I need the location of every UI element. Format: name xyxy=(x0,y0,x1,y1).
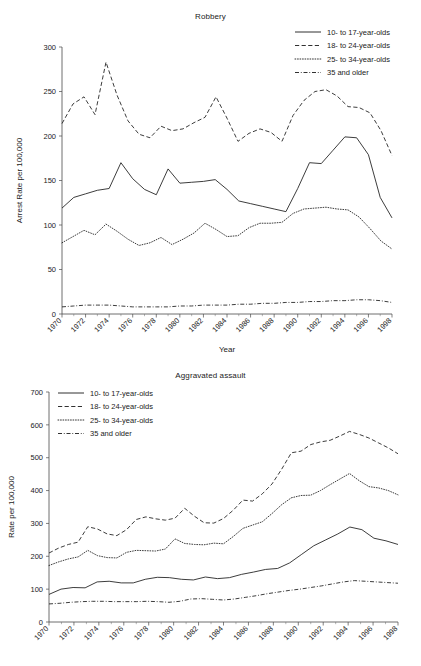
chart-robbery: Robbery 050100150200250300Arrest Rate pe… xyxy=(0,0,421,360)
x-tick-label: 1980 xyxy=(163,316,181,334)
series-line-0 xyxy=(49,527,398,594)
y-axis-title: Rate per 100,000 xyxy=(7,476,16,538)
y-tick-label: 700 xyxy=(30,388,43,397)
x-tick-label: 1984 xyxy=(207,624,225,642)
x-tick-label: 1994 xyxy=(328,316,346,334)
legend-label: 10- to 17-year-olds xyxy=(327,28,390,37)
y-tick-label: 500 xyxy=(30,453,43,462)
legend-label: 35 and older xyxy=(327,68,369,77)
x-tick-label: 1990 xyxy=(281,316,299,334)
x-tick-label: 1976 xyxy=(116,316,134,334)
series-line-1 xyxy=(49,431,398,553)
x-tick-label: 1970 xyxy=(45,316,63,334)
y-tick-label: 250 xyxy=(43,87,56,96)
x-tick-label: 1998 xyxy=(375,316,393,334)
series-line-3 xyxy=(62,300,392,307)
series-line-2 xyxy=(49,473,398,565)
legend-label: 25- to 34-year-olds xyxy=(327,55,390,64)
series-line-3 xyxy=(49,581,398,604)
x-tick-label: 1988 xyxy=(257,316,275,334)
x-tick-label: 1996 xyxy=(356,624,374,642)
y-tick-label: 600 xyxy=(30,421,43,430)
legend-label: 25- to 34-year-olds xyxy=(90,416,153,425)
y-axis-title: Arrest Rate per 100,000 xyxy=(15,137,24,223)
x-tick-label: 1990 xyxy=(282,624,300,642)
y-tick-label: 300 xyxy=(43,43,56,52)
assault-plot-svg: 0100200300400500600700Rate per 100,00019… xyxy=(0,360,421,666)
x-tick-label: 1970 xyxy=(32,624,50,642)
y-tick-label: 100 xyxy=(30,585,43,594)
y-tick-label: 150 xyxy=(43,176,56,185)
x-tick-label: 1974 xyxy=(82,624,100,642)
x-tick-label: 1992 xyxy=(306,624,324,642)
x-tick-label: 1982 xyxy=(187,316,205,334)
legend-label: 35 and older xyxy=(90,429,132,438)
x-tick-label: 1978 xyxy=(132,624,150,642)
legend-label: 10- to 17-year-olds xyxy=(90,389,153,398)
series-line-0 xyxy=(62,137,392,218)
y-tick-label: 200 xyxy=(30,552,43,561)
x-tick-label: 1980 xyxy=(157,624,175,642)
robbery-plot-svg: 050100150200250300Arrest Rate per 100,00… xyxy=(0,0,421,360)
x-tick-label: 1986 xyxy=(232,624,250,642)
legend-label: 18- to 24-year-olds xyxy=(327,41,390,50)
series-line-2 xyxy=(62,207,392,249)
y-tick-label: 300 xyxy=(30,519,43,528)
y-tick-label: 200 xyxy=(43,132,56,141)
y-tick-label: 400 xyxy=(30,486,43,495)
x-tick-label: 1994 xyxy=(331,624,349,642)
y-tick-label: 100 xyxy=(43,221,56,230)
x-tick-label: 1974 xyxy=(92,316,110,334)
x-tick-label: 1984 xyxy=(210,316,228,334)
y-tick-label: 50 xyxy=(48,265,56,274)
x-tick-label: 1992 xyxy=(305,316,323,334)
x-tick-label: 1978 xyxy=(140,316,158,334)
x-tick-label: 1998 xyxy=(381,624,399,642)
x-tick-label: 1972 xyxy=(57,624,75,642)
x-tick-label: 1988 xyxy=(257,624,275,642)
x-tick-label: 1986 xyxy=(234,316,252,334)
x-axis-title: Year xyxy=(219,345,236,354)
x-tick-label: 1976 xyxy=(107,624,125,642)
x-tick-label: 1982 xyxy=(182,624,200,642)
legend-label: 18- to 24-year-olds xyxy=(90,402,153,411)
chart-aggravated-assault: Aggravated assault 010020030040050060070… xyxy=(0,360,421,666)
x-tick-label: 1972 xyxy=(69,316,87,334)
x-tick-label: 1996 xyxy=(352,316,370,334)
